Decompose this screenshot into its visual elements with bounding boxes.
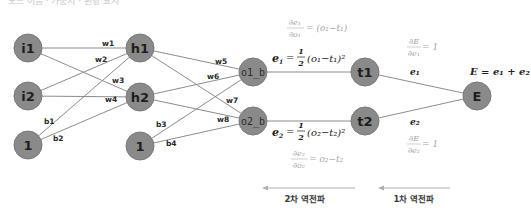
- eq-e2-sub: 2: [278, 132, 283, 139]
- edge-label-e2: e₂: [410, 117, 420, 127]
- label-w8: w8: [217, 115, 229, 124]
- node-t2: t2: [351, 107, 379, 135]
- edge-label-e1: e₁: [410, 67, 420, 77]
- node-E: E: [463, 82, 491, 110]
- eq-de1-do1-den: ∂o₁: [289, 30, 301, 39]
- node-o2-label: o2_b: [241, 116, 265, 128]
- node-t1: t1: [351, 58, 379, 86]
- eq-dE-de2-num: ∂E: [409, 134, 419, 143]
- eq-de2-do2-num: ∂e₂: [293, 149, 305, 158]
- node-o1: o1_b: [239, 58, 267, 86]
- edge-b3: [140, 72, 253, 146]
- eq-e1-sub: 1: [279, 58, 283, 65]
- edge-t1-E: [365, 72, 477, 96]
- eq-e2-def: e 2 = 1 2 (o₂−t₂)²: [272, 120, 345, 142]
- label-w4: w4: [105, 95, 117, 104]
- eq-de1-do1: ∂e₁ ∂o₁ = (o₁−t₁): [287, 18, 348, 39]
- eq-dE-de1-num: ∂E: [409, 37, 419, 46]
- eq-de2-do2: ∂e₂ ∂o₂ = o₂−t₂: [291, 149, 344, 170]
- label-b4: b4: [166, 139, 177, 148]
- arrow-left-icon: [262, 186, 268, 191]
- label-b1: b1: [44, 117, 55, 126]
- eq-e2-half-den: 2: [297, 132, 304, 142]
- label-b2: b2: [53, 134, 64, 143]
- eq-e2-rhs: (o₂−t₂)²: [307, 127, 345, 138]
- eq-dE-de1-rhs: = 1: [422, 42, 438, 52]
- edge-w7: [140, 48, 253, 121]
- eq-e1-eq: =: [286, 52, 294, 63]
- node-h1-label: h1: [131, 41, 149, 56]
- eq-de2-do2-rhs: = o₂−t₂: [309, 154, 344, 164]
- eq-e1-half-num: 1: [298, 46, 304, 56]
- node-t2-label: t2: [357, 114, 372, 129]
- node-t1-label: t1: [357, 65, 372, 80]
- eq-e2-eq: =: [286, 126, 294, 137]
- label-w5: w5: [215, 57, 227, 66]
- node-h2: h2: [126, 83, 154, 111]
- neural-network-diagram: 노드 이름 · 가중치 · 편향 표시 w1 w2 w3 w4 b1 b2 w5…: [0, 0, 531, 214]
- node-o1-label: o1_b: [241, 67, 265, 79]
- eq-dE-de2: ∂E ∂e₂ = 1: [407, 134, 438, 155]
- label-b3: b3: [156, 120, 167, 129]
- node-h2-label: h2: [131, 90, 149, 105]
- backprop-first-label: 1차 역전파: [394, 194, 435, 204]
- node-h1: h1: [126, 34, 154, 62]
- eq-de1-do1-rhs: = (o₁−t₁): [306, 23, 348, 33]
- eq-dE-de2-den: ∂e₂: [408, 146, 420, 155]
- backprop-arrow-first: 1차 역전파: [378, 186, 450, 205]
- node-bias-hidden-label: 1: [135, 139, 144, 154]
- label-w6: w6: [207, 72, 219, 81]
- eq-e2-lhs: e: [272, 126, 279, 139]
- edge-w5: [140, 48, 253, 72]
- edges-input-hidden: [28, 48, 140, 145]
- node-i2: i2: [14, 82, 42, 110]
- eq-dE-de2-rhs: = 1: [422, 139, 438, 149]
- edge-t2-E: [365, 96, 477, 121]
- node-i1: i1: [14, 34, 42, 62]
- node-bias-input-label: 1: [23, 138, 32, 153]
- label-w3: w3: [112, 76, 124, 85]
- eq-dE-de1: ∂E ∂e₁ = 1: [407, 37, 438, 58]
- arrow-left-icon: [378, 186, 384, 191]
- label-w1: w1: [102, 39, 114, 48]
- eq-dE-de1-den: ∂e₁: [408, 49, 420, 58]
- node-E-label: E: [473, 89, 482, 104]
- node-o2: o2_b: [239, 107, 267, 135]
- backprop-arrow-second: 2차 역전파: [262, 186, 355, 205]
- backprop-second-label: 2차 역전파: [285, 194, 326, 204]
- node-i2-label: i2: [21, 89, 35, 104]
- top-caption-cutoff: 노드 이름 · 가중치 · 편향 표시: [8, 0, 119, 6]
- eq-e1-half-den: 2: [297, 58, 304, 68]
- eq-e1-def: e 1 = 1 2 (o₁−t₁)²: [272, 46, 345, 68]
- eq-e1-lhs: e: [272, 52, 279, 65]
- node-bias-input: 1: [14, 131, 42, 159]
- eq-de1-do1-num: ∂e₁: [289, 18, 301, 27]
- node-i1-label: i1: [21, 41, 35, 56]
- eq-de2-do2-den: ∂o₂: [293, 161, 305, 170]
- eq-E-def: E = e₁ + e₂: [469, 66, 530, 77]
- label-w7: w7: [226, 96, 238, 105]
- eq-e2-half-num: 1: [298, 120, 304, 130]
- label-w2: w2: [95, 55, 107, 64]
- eq-e1-rhs: (o₁−t₁)²: [307, 53, 345, 64]
- node-bias-hidden: 1: [126, 132, 154, 160]
